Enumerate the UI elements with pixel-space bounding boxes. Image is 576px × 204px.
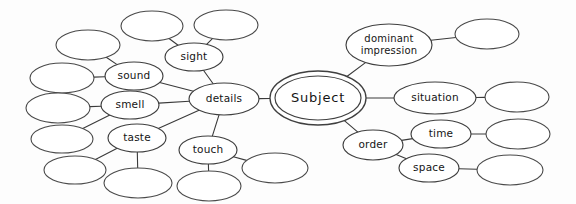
node-situation-label: situation (411, 91, 459, 103)
node-subject[interactable]: Subject (270, 71, 366, 125)
edge-sight-to-blank-sight-2 (207, 39, 213, 45)
node-blank-touch-1-shape (177, 171, 241, 201)
edge-smell-to-blank-smell-2 (83, 115, 110, 129)
node-blank-touch-2-shape (242, 153, 308, 183)
mindmap-canvas: Subjectdetailssightsoundsmelltastetouchd… (0, 0, 576, 204)
node-blank-taste-2[interactable] (104, 168, 172, 198)
node-touch-label: touch (193, 143, 224, 155)
edge-details-to-sound (160, 83, 194, 92)
node-taste[interactable]: taste (108, 124, 166, 152)
node-order-label: order (359, 138, 388, 150)
node-blank-time-1-shape (486, 119, 550, 149)
node-blank-sight-1-shape (121, 11, 183, 41)
edge-details-to-touch (212, 115, 219, 136)
node-blank-situ-1-shape (485, 82, 549, 112)
node-order[interactable]: order (343, 130, 403, 160)
edge-order-to-time (402, 139, 413, 141)
node-layer: Subjectdetailssightsoundsmelltastetouchd… (26, 10, 550, 201)
node-smell[interactable]: smell (101, 91, 159, 119)
node-blank-smell-2-shape (31, 125, 93, 153)
node-space[interactable]: space (399, 154, 459, 182)
node-time[interactable]: time (411, 120, 471, 148)
mindmap-svg: Subjectdetailssightsoundsmelltastetouchd… (0, 0, 576, 204)
node-blank-time-1[interactable] (486, 119, 550, 149)
node-blank-taste-1-shape (44, 156, 106, 184)
node-time-label: time (429, 127, 454, 139)
edge-subject-to-order (344, 121, 357, 133)
node-subject-label: Subject (291, 90, 345, 105)
node-blank-sight-2-shape (194, 10, 258, 40)
node-blank-sight-2[interactable] (194, 10, 258, 40)
node-dominant-label: dominantimpression (361, 33, 418, 56)
node-blank-smell-2[interactable] (31, 125, 93, 153)
edge-sight-to-blank-sight-1 (169, 39, 178, 46)
node-blank-dom-1-shape (455, 19, 519, 49)
node-space-label: space (413, 161, 445, 173)
node-blank-sound-2-shape (30, 63, 94, 93)
node-blank-sight-1[interactable] (121, 11, 183, 41)
edge-sound-to-blank-sound-1 (106, 57, 117, 64)
node-details-label: details (206, 92, 242, 104)
node-smell-label: smell (116, 98, 145, 110)
node-blank-situ-1[interactable] (485, 82, 549, 112)
node-blank-space-1[interactable] (477, 155, 543, 185)
node-blank-touch-2[interactable] (242, 153, 308, 183)
node-blank-dom-1[interactable] (455, 19, 519, 49)
edge-dominant-to-blank-dom-1 (431, 37, 456, 40)
node-sound[interactable]: sound (105, 62, 163, 90)
node-blank-touch-1[interactable] (177, 171, 241, 201)
node-touch[interactable]: touch (179, 136, 237, 164)
node-taste-label: taste (123, 131, 151, 143)
node-dominant[interactable]: dominantimpression (346, 24, 432, 66)
edge-details-to-smell (159, 101, 190, 103)
edge-details-to-taste (158, 110, 199, 128)
node-blank-sound-1-shape (56, 30, 120, 60)
edge-details-to-sight (203, 70, 213, 84)
node-blank-space-1-shape (477, 155, 543, 185)
node-details[interactable]: details (189, 83, 259, 115)
edge-taste-to-blank-taste-1 (95, 148, 117, 159)
node-blank-smell-1[interactable] (26, 93, 90, 123)
node-sound-label: sound (118, 69, 151, 81)
node-blank-taste-2-shape (104, 168, 172, 198)
node-blank-taste-1[interactable] (44, 156, 106, 184)
edge-order-to-space (396, 155, 406, 159)
node-blank-smell-1-shape (26, 93, 90, 123)
edge-touch-to-blank-touch-2 (233, 157, 246, 161)
node-blank-sound-2[interactable] (30, 63, 94, 93)
node-sight[interactable]: sight (165, 43, 223, 71)
node-blank-sound-1[interactable] (56, 30, 120, 60)
node-sight-label: sight (181, 50, 208, 62)
node-situation[interactable]: situation (394, 82, 476, 114)
edge-subject-to-dominant (347, 63, 366, 77)
